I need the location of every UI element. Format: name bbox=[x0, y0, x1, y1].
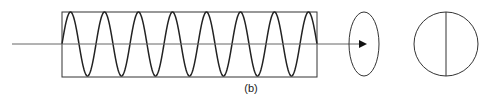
arrowhead-icon bbox=[359, 40, 367, 48]
figure-caption: (b) bbox=[236, 82, 266, 94]
